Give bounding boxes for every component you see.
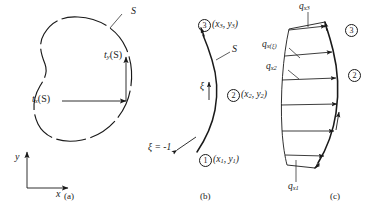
panel-c-qxxi-label: qx(ξ) [262, 40, 277, 50]
panel-a-y-axis-label: y [15, 152, 19, 162]
panel-a-traction-x-label: tx(S) [32, 94, 50, 105]
panel-c-traction-arrows [281, 26, 337, 156]
panel-a-caption: (a) [64, 191, 74, 201]
n1-mid: , y [224, 154, 233, 164]
panel-a-axes [27, 152, 68, 188]
panel-c-caption: (c) [330, 191, 340, 201]
panel-c-traction-envelope [281, 22, 325, 168]
panel-b-node-3-marker: 3 [198, 19, 211, 32]
panel-c-node-2-marker: 2 [348, 69, 361, 82]
qxxi-subscript: x(ξ) [267, 42, 277, 49]
qx3-subscript: x3 [304, 4, 310, 11]
panel-c-qx2-label: qx2 [266, 62, 277, 72]
n3-close: ) [235, 19, 238, 29]
panel-b-surface-label: S [232, 44, 237, 54]
n2-close: ) [264, 89, 267, 99]
figure-container: S ty(S) tx(S) y x (a) 3 (x3, y3) S ξ 2 (… [0, 0, 376, 209]
panel-a-surface-leader [110, 14, 122, 28]
panel-a-traction-x-argument: (S) [38, 93, 50, 104]
panel-b-xi-start-label: ξ = -1 [148, 143, 171, 153]
panel-a-surface-label: S [131, 6, 136, 16]
figure-vector-layer [0, 0, 376, 209]
panel-b-node-2-coordinates: (x2, y2) [241, 90, 267, 100]
panel-b-caption: (b) [200, 191, 211, 201]
panel-c-node-3-marker: 3 [345, 24, 358, 37]
n3-mid: , y [223, 19, 232, 29]
panel-a-traction-y-argument: (S) [110, 49, 122, 60]
n1-close: ) [236, 154, 239, 164]
panel-c-label-leaders [288, 12, 308, 182]
qx1-subscript: x1 [293, 184, 299, 191]
panel-b-node-1-coordinates: (x1, y1) [213, 155, 239, 165]
panel-b-xi-start-leader [177, 137, 196, 150]
panel-b-xi-label: ξ [200, 82, 204, 92]
panel-a-x-axis-label: x [56, 189, 60, 199]
panel-b-node-1-marker: 1 [199, 154, 212, 167]
panel-a-traction-y-label: ty(S) [104, 50, 122, 61]
qx2-subscript: x2 [271, 64, 277, 71]
panel-a-boundary-curve [34, 17, 132, 141]
panel-b-node-2-marker: 2 [227, 89, 240, 102]
panel-c-qx3-label: qx3 [299, 2, 310, 12]
panel-c-element-curve [315, 22, 338, 168]
panel-b-surface-leader [216, 52, 230, 60]
panel-c-qx1-label: qx1 [288, 182, 299, 192]
n2-mid: , y [252, 89, 261, 99]
panel-b-node-3-coordinates: (x3, y3) [212, 20, 238, 30]
